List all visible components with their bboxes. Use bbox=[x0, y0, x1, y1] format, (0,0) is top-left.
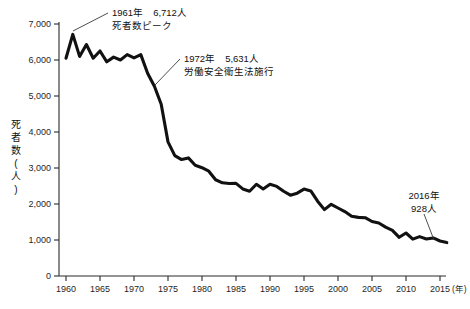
leader-line-peak-1961 bbox=[73, 13, 108, 31]
line-chart-svg: 0 1,000 2,000 3,000 4,000 5,000 6,000 7,… bbox=[0, 0, 470, 309]
y-tick-label-4: 4,000 bbox=[28, 127, 51, 137]
x-tick-label-1985: 1985 bbox=[226, 284, 246, 294]
annotation-law-1972-line-0: 1972年 5,631人 bbox=[184, 53, 259, 64]
x-tick-labels: 1960 1965 1970 1975 1980 1985 1990 1995 … bbox=[56, 284, 467, 294]
x-tick-label-2015: 2015 bbox=[430, 284, 450, 294]
x-tick-label-1970: 1970 bbox=[124, 284, 144, 294]
x-tick-marks bbox=[66, 276, 440, 281]
x-tick-label-1960: 1960 bbox=[56, 284, 76, 294]
y-tick-label-3: 3,000 bbox=[28, 163, 51, 173]
x-tick-label-1995: 1995 bbox=[294, 284, 314, 294]
x-tick-label-1975: 1975 bbox=[158, 284, 178, 294]
y-tick-labels: 0 1,000 2,000 3,000 4,000 5,000 6,000 7,… bbox=[28, 19, 51, 281]
annotation-law-1972-line-1: 労働安全衛生法施行 bbox=[184, 66, 274, 77]
annotation-law-1972: 1972年 5,631人 労働安全衛生法施行 bbox=[184, 53, 274, 77]
annotation-peak-1961: 1961年 6,712人 死者数ピーク bbox=[112, 7, 187, 31]
y-tick-label-2: 2,000 bbox=[28, 199, 51, 209]
x-tick-label-1980: 1980 bbox=[192, 284, 212, 294]
y-tick-label-6: 6,000 bbox=[28, 55, 51, 65]
y-tick-label-7: 7,000 bbox=[28, 19, 51, 29]
x-axis-unit-label: (年) bbox=[452, 284, 467, 294]
x-tick-label-1990: 1990 bbox=[260, 284, 280, 294]
x-tick-label-2010: 2010 bbox=[396, 284, 416, 294]
annotation-latest-2016: 2016年 928人 bbox=[408, 190, 439, 214]
y-tick-label-0: 0 bbox=[46, 271, 51, 281]
y-tick-label-5: 5,000 bbox=[28, 91, 51, 101]
annotation-latest-2016-line-1: 928人 bbox=[411, 203, 437, 214]
leader-line-law-1972 bbox=[155, 59, 180, 85]
annotation-latest-2016-line-0: 2016年 bbox=[408, 190, 439, 201]
x-tick-label-1965: 1965 bbox=[90, 284, 110, 294]
leader-line-latest-2016 bbox=[424, 214, 434, 240]
annotation-peak-1961-line-1: 死者数ピーク bbox=[112, 20, 172, 31]
x-tick-label-2005: 2005 bbox=[362, 284, 382, 294]
annotation-peak-1961-line-0: 1961年 6,712人 bbox=[112, 7, 187, 18]
x-tick-label-2000: 2000 bbox=[328, 284, 348, 294]
chart-container: 死 者 数 ( 人 ) 0 1,000 2,000 3,000 4,000 bbox=[0, 0, 470, 309]
y-tick-marks bbox=[54, 24, 59, 276]
y-tick-label-1: 1,000 bbox=[28, 235, 51, 245]
